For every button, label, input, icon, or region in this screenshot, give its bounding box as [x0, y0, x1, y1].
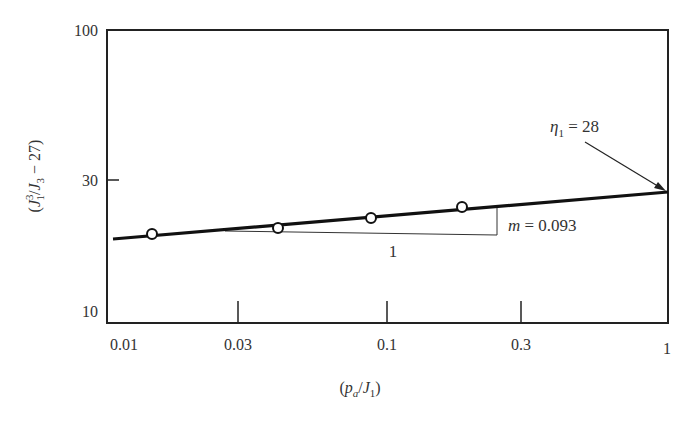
y-tick-label-100: 100	[74, 22, 98, 39]
y-axis-label: (J31/J3 − 27)	[23, 140, 46, 213]
slope-annotation: m = 0.093	[508, 216, 577, 235]
y-tick-label-30: 30	[82, 172, 98, 189]
slope-run-label: 1	[389, 242, 398, 261]
eta-annotation: η1 = 28	[550, 117, 599, 139]
x-tick-label-0.1: 0.1	[377, 336, 397, 353]
eta-arrow-line	[585, 142, 661, 188]
data-point-3	[366, 213, 376, 223]
x-tick-label-1: 1	[663, 340, 671, 357]
eta-arrow-head	[654, 182, 666, 191]
plot-frame	[107, 30, 668, 323]
y-tick-label-10: 10	[82, 303, 98, 320]
x-tick-label-0.01: 0.01	[110, 336, 138, 353]
fit-line	[113, 192, 668, 239]
data-point-4	[457, 202, 467, 212]
data-point-1	[147, 229, 157, 239]
x-tick-label-0.03: 0.03	[224, 336, 252, 353]
x-axis-label: (pa/J1)	[339, 379, 380, 399]
chart: 100 30 10 0.01 0.03 0.1 0.3 1 (pa/J1) (J…	[0, 0, 698, 422]
x-tick-label-0.3: 0.3	[511, 336, 531, 353]
data-point-2	[273, 223, 283, 233]
svg-text:(J31/J3 − 27): (J31/J3 − 27)	[23, 140, 46, 213]
